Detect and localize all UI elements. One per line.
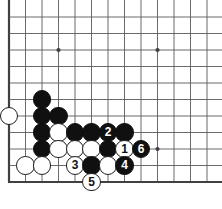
- star-point-1: [155, 48, 159, 52]
- black-stone-h[interactable]: [82, 123, 100, 141]
- move-number-6: 6: [138, 142, 145, 154]
- move-number-5: 5: [88, 175, 95, 187]
- black-stone-q[interactable]: [82, 156, 100, 174]
- move-number-4: 4: [121, 159, 128, 171]
- white-stone-p[interactable]: [33, 156, 51, 174]
- black-move-4[interactable]: 4: [115, 156, 133, 174]
- go-board-diagram: 216345: [0, 0, 222, 209]
- move-number-2: 2: [105, 126, 112, 138]
- star-point-2: [155, 147, 159, 151]
- white-move-5[interactable]: 5: [82, 173, 100, 191]
- move-number-3: 3: [72, 159, 79, 171]
- white-stone-f[interactable]: [49, 123, 67, 141]
- black-stone-b[interactable]: [33, 90, 51, 108]
- white-stone-o[interactable]: [16, 156, 34, 174]
- move-number-1: 1: [121, 142, 128, 154]
- black-stone-i[interactable]: [115, 123, 133, 141]
- star-point-0: [56, 48, 60, 52]
- white-stone-k[interactable]: [49, 140, 67, 158]
